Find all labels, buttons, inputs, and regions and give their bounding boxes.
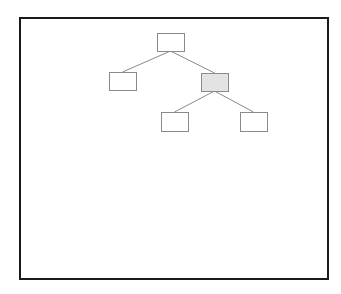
tree-diagram (0, 0, 341, 294)
tree-node-root[interactable] (158, 34, 185, 52)
edge-root-to-right-child (171, 51, 215, 73)
edge-root-to-left-child (123, 51, 171, 72)
tree-edges (123, 51, 254, 112)
tree-nodes (110, 34, 268, 132)
node-box[interactable] (162, 113, 189, 132)
edge-right-child-to-grandchild-right (215, 91, 254, 112)
tree-node-grandchild-right[interactable] (241, 113, 268, 132)
node-box[interactable] (110, 73, 137, 91)
diagram-canvas (0, 0, 341, 294)
node-box[interactable] (241, 113, 268, 132)
node-box[interactable] (158, 34, 185, 52)
tree-node-left-child[interactable] (110, 73, 137, 91)
tree-node-grandchild-left[interactable] (162, 113, 189, 132)
tree-node-right-child[interactable] (202, 74, 229, 92)
node-box[interactable] (202, 74, 229, 92)
edge-right-child-to-grandchild-left (175, 91, 215, 112)
